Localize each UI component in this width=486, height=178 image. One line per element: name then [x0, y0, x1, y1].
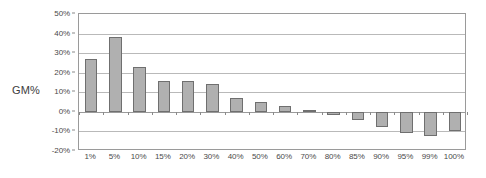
x-tick-mark	[273, 112, 274, 115]
y-tick-mark	[72, 32, 75, 33]
x-tick-mark	[394, 112, 395, 115]
bar	[255, 102, 268, 112]
x-axis-tick-labels: 1%5%10%15%20%30%40%50%60%70%80%85%90%95%…	[78, 152, 466, 168]
bar	[376, 112, 389, 127]
bar	[303, 110, 316, 112]
x-tick-mark	[346, 112, 347, 115]
x-tick-label: 30%	[204, 152, 220, 161]
bar	[352, 112, 365, 120]
x-tick-label: 5%	[109, 152, 120, 161]
x-tick-label: 85%	[349, 152, 365, 161]
bar	[182, 81, 195, 112]
x-tick-mark	[128, 112, 129, 115]
x-tick-mark	[103, 112, 104, 115]
x-tick-mark	[322, 112, 323, 115]
y-tick-mark	[72, 130, 75, 131]
x-tick-label: 1%	[84, 152, 95, 161]
x-tick-mark	[200, 112, 201, 115]
y-tick-mark	[72, 110, 75, 111]
bar	[109, 37, 122, 111]
x-tick-label: 100%	[444, 152, 464, 161]
x-tick-mark	[249, 112, 250, 115]
y-tick-label: 30%	[54, 48, 70, 57]
y-tick-label: -20%	[52, 146, 70, 155]
x-tick-label: 10%	[131, 152, 147, 161]
x-tick-mark	[152, 112, 153, 115]
bar	[206, 84, 219, 111]
x-tick-label: 15%	[155, 152, 171, 161]
x-tick-mark	[467, 112, 468, 115]
bar	[449, 112, 462, 132]
y-tick-mark	[72, 52, 75, 53]
x-tick-label: 70%	[301, 152, 317, 161]
x-tick-label: 95%	[398, 152, 414, 161]
x-tick-mark	[79, 112, 80, 115]
x-tick-label: 20%	[179, 152, 195, 161]
x-tick-label: 50%	[252, 152, 268, 161]
y-tick-label: 40%	[54, 28, 70, 37]
y-tick-mark	[72, 150, 75, 151]
y-tick-mark	[72, 71, 75, 72]
x-tick-mark	[443, 112, 444, 115]
x-tick-mark	[297, 112, 298, 115]
bar	[133, 67, 146, 112]
y-tick-label: 50%	[54, 9, 70, 18]
y-axis-tick-labels: 50%40%30%20%10%0%-10%-20%	[36, 13, 74, 150]
bar	[85, 59, 98, 112]
y-tick-mark	[72, 13, 75, 14]
x-tick-label: 60%	[276, 152, 292, 161]
bar	[158, 81, 171, 112]
x-tick-label: 90%	[373, 152, 389, 161]
x-tick-label: 99%	[422, 152, 438, 161]
y-tick-mark	[72, 91, 75, 92]
plot-area	[78, 13, 466, 150]
bars-layer	[79, 14, 465, 149]
y-tick-label: 0%	[59, 106, 70, 115]
bar	[327, 112, 340, 115]
x-tick-mark	[370, 112, 371, 115]
bar	[400, 112, 413, 134]
y-tick-label: 20%	[54, 67, 70, 76]
bar	[279, 106, 292, 112]
bar-chart: GM% 50%40%30%20%10%0%-10%-20% 1%5%10%15%…	[0, 0, 486, 178]
bar	[230, 98, 243, 112]
x-tick-mark	[176, 112, 177, 115]
y-tick-label: -10%	[52, 126, 70, 135]
x-tick-mark	[225, 112, 226, 115]
y-tick-label: 10%	[54, 87, 70, 96]
x-tick-mark	[419, 112, 420, 115]
bar	[424, 112, 437, 136]
x-tick-label: 40%	[228, 152, 244, 161]
x-tick-label: 80%	[325, 152, 341, 161]
